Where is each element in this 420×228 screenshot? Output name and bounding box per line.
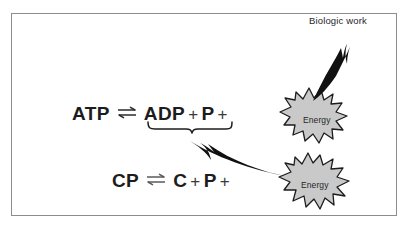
creatine-product: C	[173, 171, 187, 190]
energy-burst-upper-label: Energy	[303, 115, 331, 125]
equation-cp-row: CP C+P+	[112, 170, 233, 191]
phosphate-product: P	[201, 104, 214, 123]
phosphate-product: P	[204, 171, 217, 190]
equation-atp-row: ATP ADP+P+	[72, 103, 231, 124]
cp-reactant: CP	[112, 171, 139, 190]
plus-sign: +	[185, 105, 201, 124]
plus-sign: +	[187, 172, 203, 191]
adp-product: ADP	[144, 104, 185, 123]
equilibrium-arrow-icon	[146, 170, 166, 189]
biologic-work-label: Biologic work	[309, 15, 367, 26]
plus-sign-trailing: +	[215, 105, 231, 124]
plus-sign-trailing: +	[217, 172, 233, 191]
atp-reactant: ATP	[72, 104, 110, 123]
equilibrium-arrow-icon	[117, 103, 137, 122]
arrow-to-biologic-work	[313, 42, 352, 101]
energy-burst-lower-label: Energy	[301, 180, 329, 190]
